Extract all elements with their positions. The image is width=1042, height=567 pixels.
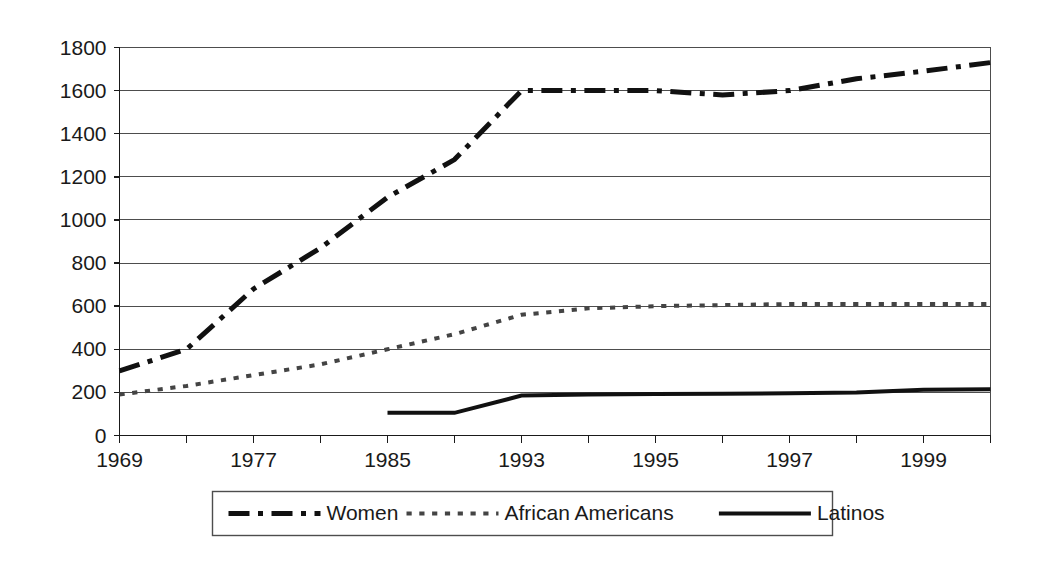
y-tick-label: 800 [71,251,106,274]
y-tick-label: 0 [95,424,107,447]
chart-figure: 020040060080010001200140016001800 196919… [0,0,1042,567]
y-tick-label: 1400 [60,122,107,145]
x-tick-label: 1993 [498,448,545,471]
x-axis-ticks [120,436,991,443]
y-tick-label: 400 [71,337,106,360]
chart-legend: WomenAfrican AmericansLatinos [213,492,885,536]
x-tick-label: 1977 [230,448,277,471]
y-tick-label: 1000 [60,208,107,231]
y-tick-label: 200 [71,380,106,403]
legend-label-women: Women [327,501,399,524]
legend-label-african-americans: African Americans [505,501,674,524]
gridlines [120,48,991,393]
y-tick-label: 1600 [60,79,107,102]
x-tick-label: 1995 [632,448,679,471]
y-axis-tick-labels: 020040060080010001200140016001800 [60,36,107,447]
x-tick-label: 1999 [900,448,947,471]
y-axis-ticks [114,48,120,436]
x-tick-label: 1997 [766,448,813,471]
series-layer [120,63,991,413]
x-tick-label: 1969 [96,448,143,471]
y-tick-label: 1200 [60,165,107,188]
line-chart: 020040060080010001200140016001800 196919… [0,0,1042,567]
y-tick-label: 600 [71,294,106,317]
series-line-women [120,63,991,371]
x-tick-label: 1985 [364,448,411,471]
y-tick-label: 1800 [60,36,107,59]
legend-label-latinos: Latinos [817,501,885,524]
x-axis-tick-labels: 1969197719851993199519971999 [96,448,947,471]
